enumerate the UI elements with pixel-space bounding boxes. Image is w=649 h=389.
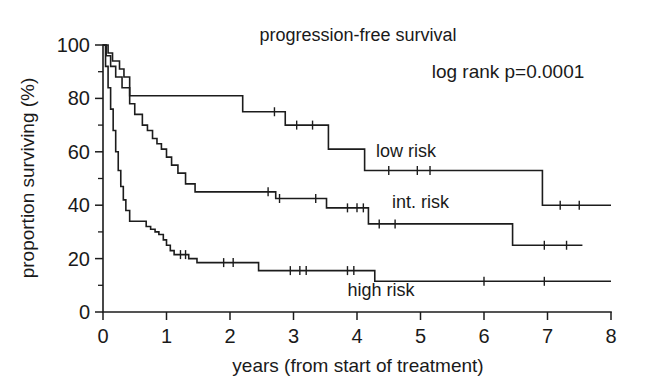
x-tick-label: 1 [161, 325, 172, 347]
x-tick-label: 7 [542, 325, 553, 347]
x-tick-label: 5 [415, 325, 426, 347]
x-axis-title: years (from start of treatment) [232, 355, 483, 376]
figure-container: progression-free survival log rank p=0.0… [0, 0, 649, 389]
axis-spine [103, 45, 611, 312]
plot-title-group: progression-free survival [259, 25, 456, 45]
y-tick-label: 20 [68, 248, 90, 270]
log-rank-annotation: log rank p=0.0001 [432, 61, 585, 82]
y-tick-label: 40 [68, 194, 90, 216]
x-tick-label: 6 [478, 325, 489, 347]
series-labels-layer: low riskint. riskhigh risk [347, 141, 449, 300]
y-tick-label: 0 [79, 301, 90, 323]
x-tick-label: 0 [97, 325, 108, 347]
axes-layer [95, 45, 611, 320]
kaplan-meier-chart: progression-free survival log rank p=0.0… [0, 0, 649, 389]
x-tick-label: 2 [224, 325, 235, 347]
y-tick-label: 60 [68, 141, 90, 163]
plot-title: progression-free survival [259, 25, 456, 45]
series-label-int-risk: int. risk [392, 192, 450, 212]
stat-annotation-group: log rank p=0.0001 [432, 61, 585, 82]
x-tick-label: 3 [288, 325, 299, 347]
y-axis-title-group: proportion surviving (%) [17, 78, 38, 279]
x-axis-title-group: years (from start of treatment) [232, 355, 483, 376]
y-axis-title: proportion surviving (%) [17, 78, 38, 279]
y-tick-label: 80 [68, 87, 90, 109]
series-label-high-risk: high risk [347, 280, 415, 300]
x-tick-label: 4 [351, 325, 362, 347]
series-label-low-risk: low risk [376, 141, 437, 161]
y-tick-label: 100 [57, 34, 90, 56]
x-tick-label: 8 [605, 325, 616, 347]
